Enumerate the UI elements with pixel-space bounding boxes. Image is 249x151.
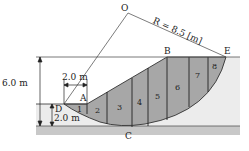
label-O: O <box>121 3 128 13</box>
slice-3: 3 <box>117 103 122 112</box>
label-E: E <box>224 46 231 56</box>
slice-6: 6 <box>175 83 180 92</box>
label-C: C <box>125 131 132 141</box>
base-layer <box>36 126 240 135</box>
label-A: A <box>79 93 87 103</box>
label-B: B <box>164 46 171 56</box>
slice-8: 8 <box>212 62 217 71</box>
slice-5: 5 <box>155 92 160 101</box>
slice-2: 2 <box>95 106 100 115</box>
radius-label: R = 8.5 [m] <box>152 16 204 47</box>
depth-dim-label: 2.0 m <box>54 113 80 123</box>
height-dim-label: 6.0 m <box>2 78 28 88</box>
slice-7: 7 <box>195 71 200 80</box>
slope-diagram: O R = 8.5 [m] B E A D C 6.0 m 2.0 m 2.0 … <box>0 0 249 151</box>
slice-4: 4 <box>137 98 142 107</box>
horizontal-dim-label: 2.0 m <box>62 72 88 82</box>
slice-1: 1 <box>77 105 82 114</box>
